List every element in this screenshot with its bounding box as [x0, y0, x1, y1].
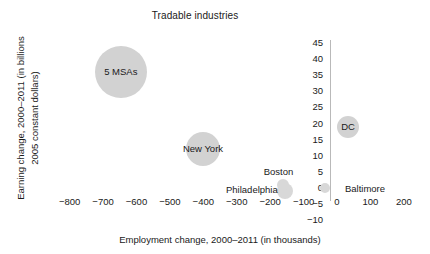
data-point-bubble[interactable]	[320, 183, 330, 193]
y-axis-line	[330, 40, 331, 201]
data-point-label: Boston	[264, 167, 294, 177]
y-axis-tick-label: 10	[299, 151, 323, 161]
x-axis-tick-label: 0	[334, 197, 339, 207]
data-point-label: 5 MSAs	[104, 67, 137, 77]
x-axis-tick-label: −600	[126, 197, 147, 207]
data-point-bubble[interactable]	[277, 179, 289, 191]
scatter-chart: Tradable industries Earning change, 2000…	[0, 0, 430, 254]
y-axis-tick-label: −10	[299, 215, 323, 225]
y-axis-tick-label: 40	[299, 54, 323, 64]
plot-area: −800−700−600−500−400−300−200−10001002004…	[0, 0, 430, 254]
data-point-label: DC	[341, 122, 355, 132]
x-axis-tick-label: −200	[259, 197, 280, 207]
x-axis-tick-label: −700	[92, 197, 113, 207]
x-axis-tick-label: −300	[226, 197, 247, 207]
y-axis-tick-label: 20	[299, 119, 323, 129]
y-axis-tick-label: 5	[299, 167, 323, 177]
data-point-label: Baltimore	[345, 184, 385, 194]
x-axis-tick-label: −400	[193, 197, 214, 207]
x-axis-tick-label: −800	[59, 197, 80, 207]
x-axis-tick-label: 200	[396, 197, 412, 207]
x-axis-tick-label: −500	[159, 197, 180, 207]
data-point-label: New York	[183, 144, 223, 154]
y-axis-tick-label: 30	[299, 86, 323, 96]
data-point-label: Philadelphia	[226, 185, 278, 195]
y-axis-tick-label: 15	[299, 135, 323, 145]
y-axis-tick-label: 45	[299, 38, 323, 48]
x-axis-tick-label: 100	[362, 197, 378, 207]
y-axis-tick-label: 25	[299, 102, 323, 112]
y-axis-tick-label: 35	[299, 70, 323, 80]
y-axis-tick-label: −5	[299, 199, 323, 209]
